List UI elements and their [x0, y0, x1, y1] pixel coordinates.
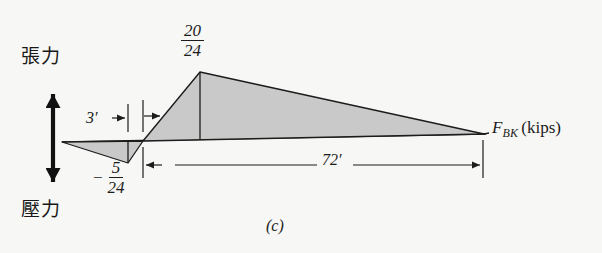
dimension-3ft: [112, 100, 160, 132]
minimum-denominator: 24: [105, 178, 128, 196]
tension-shaded-area: [143, 72, 484, 141]
tension-label: 張力: [21, 47, 61, 66]
force-axis-label: FBK(kips): [492, 119, 561, 139]
force-subscript: BK: [502, 126, 518, 140]
compression-label: 壓力: [21, 200, 61, 219]
minimum-fraction: 5 24: [105, 159, 128, 196]
tension-region: [143, 72, 484, 141]
minus-sign: −: [93, 169, 103, 186]
force-units: (kips): [521, 118, 561, 137]
force-variable: F: [492, 118, 502, 137]
figure-caption: (c): [266, 218, 284, 234]
minimum-signed-fraction: − 5 24: [93, 159, 128, 196]
force-diagram-figure: 張力 壓力 20 24 − 5 24 3′ 72′ FBK(kips) (c): [0, 0, 602, 253]
peak-numerator: 20: [181, 22, 204, 41]
minimum-value-label: − 5 24: [93, 159, 128, 196]
force-axis-leader: [484, 133, 489, 134]
minimum-numerator: 5: [109, 159, 124, 178]
dimension-3ft-label: 3′: [86, 110, 98, 126]
dimension-72ft: [143, 140, 483, 178]
peak-denominator: 24: [181, 41, 204, 59]
peak-value-label: 20 24: [181, 22, 204, 59]
dimension-72ft-label: 72′: [322, 152, 342, 168]
peak-fraction: 20 24: [181, 22, 204, 59]
